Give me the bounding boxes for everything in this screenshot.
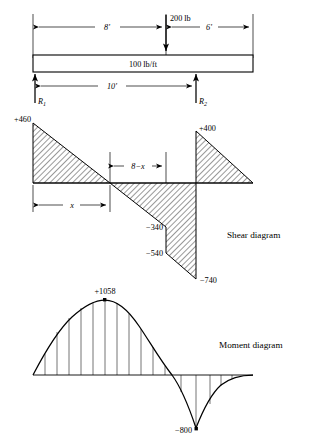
beam-body: 100 lb/ft bbox=[33, 55, 253, 72]
point-load-200lb: 200 lb bbox=[166, 14, 191, 51]
beam-shear-moment-figure: 8' 6' 200 lb 100 lb/ft R1 R2 bbox=[0, 0, 315, 443]
reaction-R2-label: R2 bbox=[198, 97, 207, 107]
reaction-R1: R1 bbox=[35, 74, 46, 107]
shear-diagram-caption: Shear diagram bbox=[227, 230, 280, 240]
shear-label-right-support-bottom: −740 bbox=[200, 276, 217, 285]
moment-curve bbox=[33, 300, 253, 428]
moment-diagram: +1058 −800 Moment diagram bbox=[33, 287, 283, 435]
dimension-8ft-label: 8' bbox=[104, 23, 110, 32]
dimension-10ft: 10' bbox=[41, 82, 192, 91]
shear-dimension-8-minus-x-label: 8−x bbox=[131, 162, 145, 171]
dimension-6ft-label: 6' bbox=[206, 23, 212, 32]
moment-label-max-positive: +1058 bbox=[95, 287, 116, 296]
moment-peak-marker bbox=[103, 298, 106, 301]
point-load-label: 200 lb bbox=[170, 14, 191, 23]
shear-label-left-of-point-load: −340 bbox=[146, 223, 163, 232]
shear-area-positive-left bbox=[33, 123, 110, 183]
shear-dimension-8-minus-x: 8−x bbox=[110, 152, 166, 183]
shear-area-positive-right bbox=[196, 131, 253, 183]
reaction-R2: R2 bbox=[196, 74, 207, 107]
distributed-load-label: 100 lb/ft bbox=[129, 60, 158, 69]
dimension-10ft-label: 10' bbox=[107, 82, 117, 91]
dimension-8ft: 8' bbox=[39, 23, 162, 32]
figure-sheet: 8' 6' 200 lb 100 lb/ft R1 R2 bbox=[0, 0, 315, 443]
reaction-R1-label: R1 bbox=[37, 97, 46, 107]
shear-diagram: +460 +400 −340 −540 −740 x 8−x Shear dia… bbox=[14, 115, 280, 285]
beam-witness-lines bbox=[33, 14, 253, 58]
shear-label-start: +460 bbox=[14, 115, 31, 124]
moment-diagram-caption: Moment diagram bbox=[219, 340, 283, 350]
shear-label-right-of-point-load: −540 bbox=[146, 249, 163, 258]
moment-trough-marker bbox=[195, 427, 198, 430]
dimension-6ft: 6' bbox=[172, 23, 249, 32]
shear-dimension-x: x bbox=[33, 185, 110, 212]
beam-loading-diagram: 8' 6' 200 lb 100 lb/ft R1 R2 bbox=[33, 14, 253, 107]
shear-dimension-x-label: x bbox=[69, 201, 74, 210]
moment-label-max-negative: −800 bbox=[175, 426, 192, 435]
shear-label-right-support-top: +400 bbox=[199, 124, 216, 133]
